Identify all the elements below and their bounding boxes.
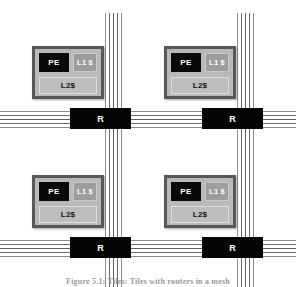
pe-block: PE — [39, 182, 69, 201]
tile-top-row: PE L1 $ — [39, 182, 97, 201]
tile-bottom-left: PE L1 $ L2$ — [32, 175, 104, 228]
l1-cache-block: L1 $ — [205, 182, 229, 201]
l2-cache-block: L2$ — [171, 206, 229, 223]
l1-cache-block: L1 $ — [73, 182, 97, 201]
l1-cache-block: L1 $ — [73, 53, 97, 72]
router-top-right: R — [202, 108, 263, 129]
router-bottom-right: R — [202, 237, 263, 258]
figure-caption: Figure 5.1: Tiles: Tiles with routers in… — [0, 277, 296, 286]
l1-cache-block: L1 $ — [205, 53, 229, 72]
pe-block: PE — [171, 53, 201, 72]
mesh-figure: PE L1 $ L2$ PE L1 $ L2$ PE L1 $ L2$ PE L… — [0, 0, 296, 287]
tile-top-left: PE L1 $ L2$ — [32, 46, 104, 99]
tile-top-row: PE L1 $ — [171, 53, 229, 72]
router-bottom-left: R — [70, 237, 131, 258]
tile-bottom-right: PE L1 $ L2$ — [164, 175, 236, 228]
pe-block: PE — [171, 182, 201, 201]
tile-top-right: PE L1 $ L2$ — [164, 46, 236, 99]
l2-cache-block: L2$ — [171, 77, 229, 94]
tile-top-row: PE L1 $ — [171, 182, 229, 201]
l2-cache-block: L2$ — [39, 206, 97, 223]
tile-top-row: PE L1 $ — [39, 53, 97, 72]
l2-cache-block: L2$ — [39, 77, 97, 94]
pe-block: PE — [39, 53, 69, 72]
router-top-left: R — [70, 108, 131, 129]
